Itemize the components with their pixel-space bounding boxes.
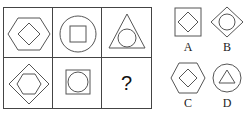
option-d[interactable]: D xyxy=(207,60,247,112)
puzzle-grid: ? xyxy=(3,7,152,109)
triangle-circle-icon xyxy=(102,8,152,58)
circle-triangle-icon xyxy=(207,60,247,96)
circle-square-icon xyxy=(53,8,103,58)
option-a[interactable]: A xyxy=(168,4,208,56)
option-label: A xyxy=(168,40,208,55)
cell-circle-square xyxy=(53,8,102,58)
diamond-hexagon-icon xyxy=(4,58,54,108)
square-diamond-icon xyxy=(168,4,208,40)
question-mark: ? xyxy=(102,72,151,95)
option-c[interactable]: C xyxy=(168,60,208,112)
option-b[interactable]: B xyxy=(207,4,247,56)
diamond-circle-icon xyxy=(207,4,247,40)
cell-hexagon-diamond xyxy=(4,8,53,58)
cell-diamond-hexagon xyxy=(4,58,53,108)
option-label: D xyxy=(207,96,247,111)
square-circle-icon xyxy=(53,58,103,108)
hexagon-diamond-icon xyxy=(168,60,208,96)
cell-triangle-circle xyxy=(102,8,151,58)
hexagon-diamond-icon xyxy=(4,8,54,58)
option-label: B xyxy=(207,40,247,55)
cell-square-circle xyxy=(53,58,102,108)
cell-unknown: ? xyxy=(102,58,151,108)
option-label: C xyxy=(168,96,208,111)
